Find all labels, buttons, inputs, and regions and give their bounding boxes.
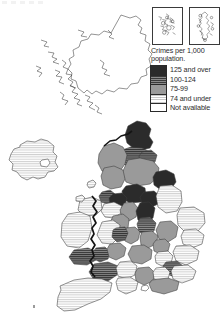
region-wiltshire	[116, 261, 137, 279]
legend-label-125-and-over: 125 and over	[170, 65, 211, 74]
page-corner-mark	[33, 305, 35, 308]
legend-label-74-and-under: 74 and under	[170, 94, 211, 103]
legend-swatch-not-available	[150, 103, 167, 112]
region-lincolnshire	[156, 185, 182, 213]
region-sussex	[149, 278, 179, 294]
legend-title: Crimes per 1,000 population.	[151, 47, 223, 63]
legend-row-74-and-under: 74 and under	[150, 94, 223, 103]
legend-row-not-available: Not available	[150, 103, 223, 112]
legend-label-not-available: Not available	[170, 103, 210, 112]
region-cambridgeshire	[156, 221, 178, 242]
legend-row-100-124: 100-124	[150, 75, 223, 84]
region-northern-ireland	[9, 139, 58, 180]
orkney-islands-inset	[152, 7, 183, 45]
shetland-islands-inset	[189, 7, 220, 45]
region-devon-and-cornwall	[57, 278, 112, 311]
legend-row-125-and-over: 125 and over	[150, 65, 223, 74]
region-dyfed-powys	[61, 212, 92, 248]
region-dorset	[116, 277, 138, 294]
isle-of-wight	[141, 285, 149, 291]
region-northumbria	[125, 121, 153, 150]
isle-of-man	[87, 180, 96, 188]
legend-swatch-100-124	[150, 75, 167, 84]
legend-label-100-124: 100-124	[170, 75, 196, 84]
region-scotland	[36, 15, 152, 114]
region-norfolk	[177, 207, 205, 232]
legend-row-75-99: 75-99	[150, 84, 223, 93]
legend-swatch-75-99	[150, 84, 167, 93]
map-legend: Crimes per 1,000 population. 125 and ove…	[150, 47, 223, 112]
region-gloucestershire	[107, 243, 126, 260]
legend-label-75-99: 75-99	[170, 84, 188, 93]
region-lancashire	[101, 166, 125, 189]
legend-swatch-125-and-over	[150, 65, 167, 74]
map-figure: Crimes per 1,000 population. 125 and ove…	[0, 0, 223, 323]
legend-swatch-74-and-under	[150, 94, 167, 103]
